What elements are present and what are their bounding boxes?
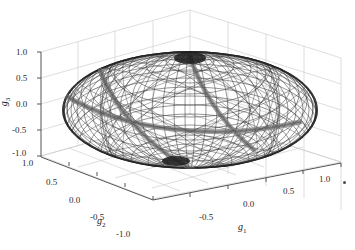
z-tick-label: 0.0 xyxy=(16,99,27,109)
x-axis-title-sub: 1 xyxy=(243,227,247,235)
plot-background xyxy=(0,0,355,250)
z-tick-label: 1.0 xyxy=(16,47,27,57)
z-axis-title: g3 xyxy=(0,98,12,107)
z-axis-title-text: g xyxy=(0,101,9,106)
y-tick-label: 0.5 xyxy=(46,177,57,187)
z-tick-label: 0.5 xyxy=(16,73,27,83)
y-axis-title-sub: 2 xyxy=(102,221,106,229)
x-axis-title: g1 xyxy=(238,221,247,235)
north-pole-marker xyxy=(174,52,206,64)
y-tick-label: 1.0 xyxy=(22,158,33,168)
stray-dot-marker xyxy=(343,181,346,184)
z-tick-label: -1.0 xyxy=(12,148,26,158)
plot-canvas xyxy=(0,0,355,250)
south-pole-marker xyxy=(162,156,190,166)
x-tick-label: 0.0 xyxy=(243,199,254,209)
z-tick-label: -0.5 xyxy=(12,125,26,135)
x-tick-label: 1.0 xyxy=(319,174,330,184)
y-axis-title: g2 xyxy=(97,215,106,229)
x-tick-label: -0.5 xyxy=(199,212,213,222)
y-tick-label: -1.0 xyxy=(116,229,130,239)
z-axis-title-sub: 3 xyxy=(4,98,12,102)
y-tick-label: 0.0 xyxy=(69,195,80,205)
x-tick-label: 0.5 xyxy=(283,186,294,196)
